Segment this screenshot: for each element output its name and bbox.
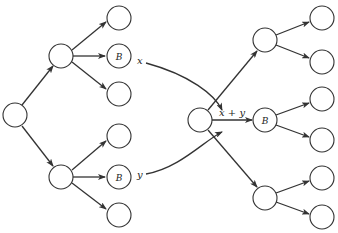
edge-r3-to-leaf1	[276, 181, 309, 193]
y-label: y	[136, 169, 143, 180]
right-tree-nodes: B	[188, 6, 334, 229]
right-leaf-node	[310, 166, 334, 190]
right-root-node	[188, 108, 212, 132]
left-tree-nodes: B B	[3, 6, 131, 227]
left-upper-b-label: B	[115, 52, 123, 62]
left-lower-node	[49, 165, 73, 189]
right-leaf-node	[310, 50, 334, 74]
tree-diagram: B B B x y x + y	[0, 0, 338, 233]
x-label: x	[137, 55, 143, 66]
left-leaf-node	[107, 6, 131, 30]
right-middle-b-label: B	[261, 116, 269, 126]
right-leaf-node	[310, 6, 334, 30]
edge-root-to-lower	[22, 126, 53, 166]
edge-lower-to-leaf1	[72, 141, 106, 170]
right-lower-node	[253, 186, 277, 210]
edge-rroot-to-upper	[208, 51, 257, 110]
left-leaf-node	[107, 82, 131, 106]
edge-lower-to-leaf3	[72, 183, 106, 209]
left-lower-b-label: B	[115, 173, 123, 183]
right-leaf-node	[310, 87, 334, 111]
right-leaf-node	[310, 128, 334, 152]
left-root-node	[3, 103, 27, 127]
edge-upper-to-leaf1	[72, 22, 106, 50]
left-leaf-node	[107, 203, 131, 227]
sum-label: x + y	[219, 107, 245, 118]
edge-rroot-to-lower	[208, 130, 257, 187]
right-leaf-node	[310, 205, 334, 229]
left-upper-node	[49, 44, 73, 68]
right-upper-node	[253, 28, 277, 52]
edge-y-to-right-root	[146, 132, 222, 174]
left-leaf-node	[107, 124, 131, 148]
edge-upper-to-leaf3	[72, 62, 106, 89]
edge-r2-to-leaf2	[276, 125, 309, 137]
edge-x-to-right-root	[146, 63, 222, 110]
edge-r1-to-leaf2	[276, 45, 309, 58]
edge-r1-to-leaf1	[276, 22, 309, 35]
edge-r3-to-leaf2	[276, 202, 309, 214]
edge-r2-to-leaf1	[276, 103, 309, 115]
edge-root-to-upper	[22, 66, 53, 105]
